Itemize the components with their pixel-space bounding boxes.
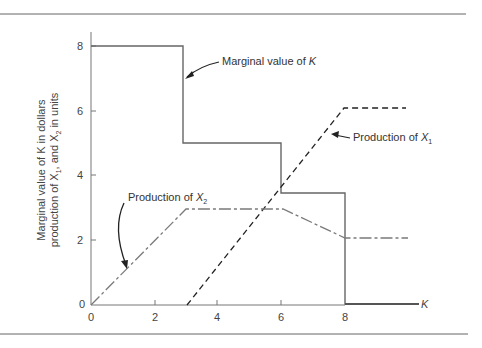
chart-canvas: 8 6 4 2 0 0 2 4 6 8 K Marginal value of … <box>0 0 482 348</box>
x-tick-0: 0 <box>88 311 94 323</box>
annotation-production-x1: Production of X1 <box>331 131 432 145</box>
annotation-production-x2: Production of X2 <box>118 191 207 269</box>
y-tick-2: 2 <box>77 234 83 246</box>
series-marginal-value <box>91 46 419 304</box>
x-axis-label: K <box>421 298 429 310</box>
series-production-x2 <box>91 209 408 305</box>
y-tick-8: 8 <box>77 40 83 52</box>
svg-text:Production of X1: Production of X1 <box>353 131 432 145</box>
y-axis-label-line2: production of X1, and X2 in units <box>48 92 62 247</box>
y-axis-label: Marginal value of K in dollars productio… <box>35 92 62 247</box>
y-tick-4: 4 <box>77 169 83 181</box>
y-tick-labels: 8 6 4 2 0 <box>77 40 85 310</box>
x-tick-4: 4 <box>214 311 220 323</box>
x-tick-labels: 0 2 4 6 8 <box>88 311 348 323</box>
y-tick-0: 0 <box>79 298 85 310</box>
annotation-marginal-value: Marginal value of K <box>185 55 317 79</box>
x-tick-8: 8 <box>342 311 348 323</box>
x-tick-2: 2 <box>152 311 158 323</box>
y-tick-6: 6 <box>77 105 83 117</box>
x-tick-6: 6 <box>278 311 284 323</box>
svg-text:Production of X2: Production of X2 <box>128 191 207 205</box>
y-axis-label-line1: Marginal value of K in dollars <box>35 99 47 241</box>
svg-text:Marginal value of K: Marginal value of K <box>222 55 317 67</box>
axes <box>91 32 345 305</box>
